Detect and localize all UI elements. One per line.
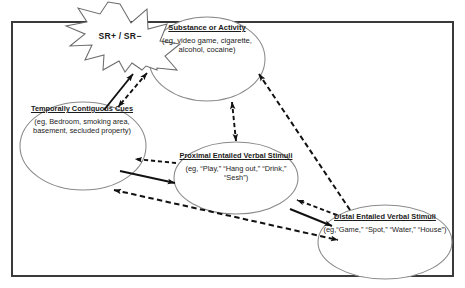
connector-proximal-distal-dashed [297, 200, 337, 215]
diagram-canvas: SR+ / SR− Substance or Activity (eg, vid… [0, 0, 465, 288]
node-temporally-contiguous-cues [20, 102, 146, 190]
connector-substance-proximal [232, 102, 236, 141]
burst-sr-text: SR+ / SR− [99, 31, 142, 41]
node-distal-entailed-verbal-stimuli [318, 205, 452, 279]
connector-substance-temporal [118, 73, 147, 107]
connector-proximal-distal-solid [290, 209, 332, 226]
burst-sr-label: SR+ / SR− [85, 31, 155, 41]
connector-temporal-to-burst [104, 74, 133, 110]
node-proximal-entailed-verbal-stimuli [174, 142, 298, 214]
diagram-graphics [0, 0, 465, 288]
